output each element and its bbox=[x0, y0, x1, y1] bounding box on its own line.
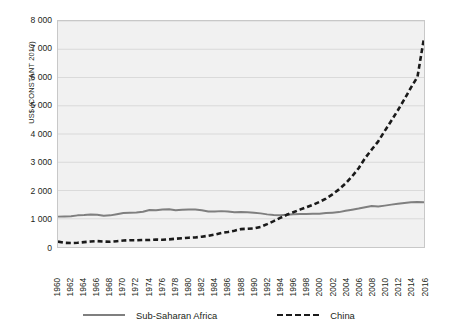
x-axis-tick-label: 1968 bbox=[105, 277, 113, 296]
x-axis-tick-label: 1990 bbox=[249, 277, 257, 296]
x-axis-tick-label: 1992 bbox=[262, 277, 270, 296]
x-axis-tick-label: 1984 bbox=[210, 277, 218, 296]
y-axis-tick-label: 2 000 bbox=[10, 187, 52, 196]
x-axis-tick-label: 2002 bbox=[328, 277, 336, 296]
x-axis-tick-label: 2012 bbox=[394, 277, 402, 296]
x-axis-tick-label: 1980 bbox=[184, 277, 192, 296]
y-axis-tick-label: 7 000 bbox=[10, 44, 52, 53]
x-axis-tick-label: 1962 bbox=[65, 277, 73, 296]
x-axis-tick-label: 1970 bbox=[118, 277, 126, 296]
y-axis-tick-label: 5 000 bbox=[10, 101, 52, 110]
x-axis-tick-label: 1960 bbox=[52, 277, 60, 296]
plot-area bbox=[57, 20, 425, 248]
x-axis-tick-label: 1974 bbox=[144, 277, 152, 296]
x-axis-tick-label: 2000 bbox=[315, 277, 323, 296]
x-axis-tick-label: 2008 bbox=[368, 277, 376, 296]
x-axis-tick-label: 1966 bbox=[92, 277, 100, 296]
x-axis-tick-label: 2016 bbox=[420, 277, 428, 296]
legend-item-sub-saharan-africa: Sub-Saharan Africa bbox=[83, 310, 217, 321]
y-axis-tick-label: 4 000 bbox=[10, 130, 52, 139]
legend-label-sub-saharan-africa: Sub-Saharan Africa bbox=[136, 310, 217, 321]
x-axis-tick-label: 1972 bbox=[131, 277, 139, 296]
y-axis-tick-label: 0 bbox=[10, 244, 52, 253]
chart-legend: Sub-Saharan Africa China bbox=[57, 305, 425, 325]
x-axis-tick-label: 1986 bbox=[223, 277, 231, 296]
x-axis-tick-label: 1996 bbox=[289, 277, 297, 296]
x-axis-tick-label: 1976 bbox=[157, 277, 165, 296]
x-axis-tick-label: 2006 bbox=[354, 277, 362, 296]
legend-label-china: China bbox=[330, 310, 355, 321]
y-axis-tick-labels: 01 0002 0003 0004 0005 0006 0007 0008 00… bbox=[6, 0, 52, 333]
gridlines bbox=[58, 21, 424, 219]
line-chart: US$ (CONSTANT 2010) 01 0002 0003 0004 00… bbox=[0, 0, 452, 333]
y-axis-tick-label: 1 000 bbox=[10, 215, 52, 224]
y-axis-tick-label: 3 000 bbox=[10, 158, 52, 167]
x-axis-tick-label: 1978 bbox=[170, 277, 178, 296]
legend-swatch-dashed-line-icon bbox=[277, 314, 319, 316]
x-axis-tick-label: 2010 bbox=[381, 277, 389, 296]
legend-item-china: China bbox=[277, 310, 355, 321]
x-axis-tick-label: 1982 bbox=[197, 277, 205, 296]
series-lines bbox=[58, 38, 424, 243]
x-axis-tick-label: 2004 bbox=[341, 277, 349, 296]
legend-swatch-solid-line-icon bbox=[83, 314, 125, 316]
x-axis-tick-labels: 1960196219641966196819701972197419761978… bbox=[57, 250, 425, 296]
series-line bbox=[58, 202, 424, 217]
x-axis-tick-label: 1998 bbox=[302, 277, 310, 296]
y-axis-tick-label: 6 000 bbox=[10, 73, 52, 82]
x-axis-tick-label: 2014 bbox=[407, 277, 415, 296]
x-axis-tick-label: 1994 bbox=[276, 277, 284, 296]
x-axis-tick-label: 1988 bbox=[236, 277, 244, 296]
y-axis-tick-label: 8 000 bbox=[10, 16, 52, 25]
x-axis-tick-label: 1964 bbox=[78, 277, 86, 296]
plot-svg bbox=[58, 21, 424, 247]
